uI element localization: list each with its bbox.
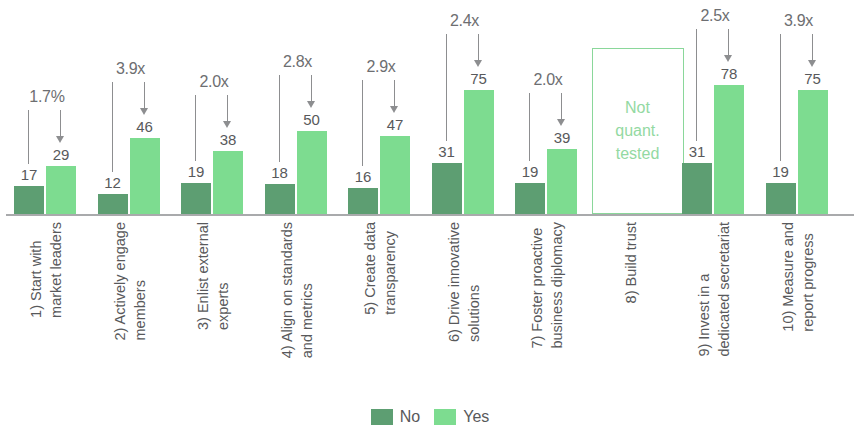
bar-no[interactable]: [515, 183, 545, 214]
bar-no[interactable]: [348, 188, 378, 214]
category-label-line1: 3) Enlist external: [195, 222, 211, 330]
bar-value-yes: 46: [125, 118, 165, 135]
category-label-text: 7) Foster proactivebusiness diplomacy: [528, 222, 567, 349]
category-label: 1) Start withmarket leaders: [6, 222, 88, 392]
bar-no[interactable]: [766, 183, 796, 214]
bar-pair: 1246: [90, 0, 172, 214]
bar-yes[interactable]: [297, 131, 327, 214]
annotation-stem-line: [446, 34, 447, 141]
bar-value-yes: 78: [709, 65, 749, 82]
bar-group: 31782.5x: [674, 0, 756, 214]
bar-yes[interactable]: [380, 136, 410, 214]
bar-no[interactable]: [265, 184, 295, 214]
category-label: 5) Create datatransparency: [340, 222, 422, 392]
category-label-line2: report progress: [799, 222, 819, 332]
category-label-line1: 4) Align on standards: [279, 222, 295, 358]
bar-yes[interactable]: [714, 85, 744, 214]
bar-yes[interactable]: [46, 166, 76, 214]
legend-label-yes: Yes: [463, 408, 489, 426]
bar-value-yes: 38: [208, 131, 248, 148]
multiplier-label: 3.9x: [90, 60, 172, 78]
annotation-stem-line: [195, 95, 196, 160]
bar-no[interactable]: [682, 163, 712, 214]
multiplier-label: 3.9x: [758, 12, 840, 30]
bar-yes[interactable]: [547, 149, 577, 214]
x-axis-line: [6, 214, 854, 216]
multiplier-label: 1.7%: [6, 88, 88, 106]
bar-value-yes: 39: [542, 129, 582, 146]
annotation-arrow-head-icon: [307, 101, 315, 108]
bar-no[interactable]: [181, 183, 211, 214]
annotation-arrow-line: [812, 34, 813, 60]
bar-no[interactable]: [98, 194, 128, 214]
annotation-arrow-head-icon: [474, 60, 482, 67]
annotation-stem-line: [362, 80, 363, 165]
bar-value-yes: 75: [459, 70, 499, 87]
annotation-arrow-line: [561, 93, 562, 119]
not-quantitatively-tested-text: Notquant.tested: [593, 96, 683, 166]
annotation-stem-line: [696, 29, 697, 141]
multiplier-label: 2.0x: [507, 71, 589, 89]
category-label-line2: dedicated secretariat: [715, 222, 735, 357]
bar-value-yes: 50: [292, 111, 332, 128]
category-label: 7) Foster proactivebusiness diplomacy: [507, 222, 589, 392]
category-label-text: 6) Drive innovativesolutions: [445, 222, 484, 342]
bar-pair: 3175: [424, 0, 506, 214]
bar-yes[interactable]: [213, 151, 243, 214]
annotation-arrow-head-icon: [557, 119, 565, 126]
category-label: 10) Measure andreport progress: [758, 222, 840, 392]
annotation-stem-line: [529, 93, 530, 160]
category-label-line1: 8) Build trust: [623, 222, 639, 303]
category-label-text: 2) Actively engagemembers: [111, 222, 150, 341]
bar-chart: 17291.7%1) Start withmarket leaders12463…: [0, 0, 860, 442]
bar-no[interactable]: [432, 163, 462, 214]
bar-pair: 1850: [257, 0, 339, 214]
bar-value-no: 19: [761, 163, 801, 180]
annotation-arrow-line: [144, 82, 145, 108]
annotation-arrow-line: [478, 34, 479, 60]
bar-group: 31752.4x: [424, 0, 506, 214]
category-label-line1: 9) Invest in a: [696, 274, 712, 357]
category-label-line2: market leaders: [47, 222, 67, 318]
bar-value-no: 17: [9, 166, 49, 183]
category-label-line1: 2) Actively engage: [112, 222, 128, 341]
chart-legend: No Yes: [0, 408, 860, 426]
legend-item-no[interactable]: No: [371, 408, 420, 426]
bar-group: 19392.0x: [507, 0, 589, 214]
category-label-text: 4) Align on standardsand metrics: [278, 222, 317, 358]
bar-yes[interactable]: [130, 138, 160, 214]
annotation-arrow-head-icon: [390, 106, 398, 113]
bar-value-yes: 29: [41, 146, 81, 163]
bar-group: 17291.7%: [6, 0, 88, 214]
bar-value-no: 31: [427, 143, 467, 160]
bar-value-no: 19: [510, 163, 550, 180]
category-label-line2: members: [131, 222, 151, 341]
bar-group: 18502.8x: [257, 0, 339, 214]
legend-label-no: No: [400, 408, 420, 426]
bar-pair: 1729: [6, 0, 88, 214]
multiplier-label: 2.8x: [257, 53, 339, 71]
annotation-arrow-head-icon: [56, 136, 64, 143]
annotation-arrow-line: [728, 29, 729, 55]
bar-group: 16472.9x: [340, 0, 422, 214]
category-label: 6) Drive innovativesolutions: [424, 222, 506, 392]
category-label: 4) Align on standardsand metrics: [257, 222, 339, 392]
legend-swatch-yes-icon: [434, 409, 456, 425]
annotation-stem-line: [279, 75, 280, 162]
annotation-stem-line: [112, 82, 113, 172]
bar-no[interactable]: [14, 186, 44, 214]
bar-yes[interactable]: [464, 90, 494, 214]
category-label: 8) Build trust: [591, 222, 673, 392]
legend-item-yes[interactable]: Yes: [434, 408, 489, 426]
category-label: 2) Actively engagemembers: [90, 222, 172, 392]
category-label: 3) Enlist externalexperts: [173, 222, 255, 392]
multiplier-label: 2.4x: [424, 12, 506, 30]
annotation-arrow-line: [227, 95, 228, 121]
category-label-text: 3) Enlist externalexperts: [194, 222, 233, 330]
bar-pair: 1975: [758, 0, 840, 214]
category-label-text: 1) Start withmarket leaders: [27, 222, 66, 318]
legend-swatch-no-icon: [371, 409, 393, 425]
annotation-stem-line: [28, 110, 29, 164]
bar-group: 19753.9x: [758, 0, 840, 214]
bar-yes[interactable]: [798, 90, 828, 214]
